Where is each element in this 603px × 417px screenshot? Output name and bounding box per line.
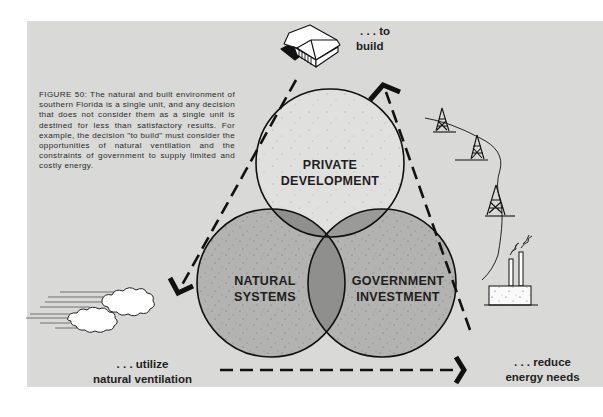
energy-label-line1: . . . reduce — [495, 355, 590, 370]
private-development-label: PRIVATE DEVELOPMENT — [270, 157, 390, 189]
government-label-line1: GOVERNMENT — [343, 273, 453, 289]
energy-label-line2: energy needs — [495, 370, 590, 385]
build-label-line1: . . . to — [356, 24, 416, 39]
power-plant-icon — [484, 235, 538, 305]
private-label-line1: PRIVATE — [270, 157, 390, 173]
ventilation-label: . . . utilize natural ventilation — [85, 357, 200, 387]
ventilation-label-line1: . . . utilize — [85, 357, 200, 372]
government-investment-label: GOVERNMENT INVESTMENT — [343, 273, 453, 305]
natural-label-line2: SYSTEMS — [220, 289, 310, 305]
energy-label: . . . reduce energy needs — [495, 355, 590, 385]
government-label-line2: INVESTMENT — [343, 289, 453, 305]
arrowhead-right-icon — [456, 357, 464, 383]
natural-label-line1: NATURAL — [220, 273, 310, 289]
wind-clouds-icon — [26, 288, 154, 333]
private-label-line2: DEVELOPMENT — [270, 173, 390, 189]
natural-systems-label: NATURAL SYSTEMS — [220, 273, 310, 305]
figure-caption: FIGURE 50: The natural and built environ… — [39, 90, 235, 172]
ventilation-label-line2: natural ventilation — [85, 372, 200, 387]
build-label-line2: build — [356, 39, 416, 54]
house-icon — [281, 25, 340, 67]
arrowhead-left-icon — [170, 278, 193, 293]
build-label: . . . to build — [356, 24, 416, 54]
